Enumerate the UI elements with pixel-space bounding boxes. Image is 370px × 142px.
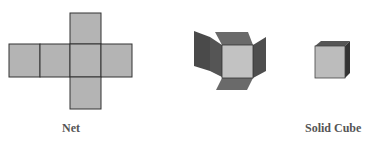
net-label: Net — [62, 121, 80, 136]
net-figure — [9, 13, 132, 109]
solid-face-side — [345, 41, 350, 78]
net-face-left-1 — [9, 44, 40, 77]
solid-face-front — [315, 46, 345, 78]
solid-cube-label: Solid Cube — [305, 121, 361, 136]
fold-flap-bottom — [216, 78, 253, 90]
net-face-top — [70, 13, 101, 44]
net-face-right — [101, 44, 132, 77]
solid-cube-figure — [315, 41, 350, 78]
solid-face-top — [315, 41, 350, 46]
net-face-bottom — [70, 77, 101, 109]
net-face-center — [70, 44, 101, 77]
fold-flap-top — [215, 32, 253, 45]
fold-flap-right — [253, 37, 266, 78]
folding-cube-figure — [194, 31, 266, 90]
fold-face-front — [222, 45, 253, 78]
fold-flap-left — [210, 37, 222, 77]
net-face-left-2 — [40, 44, 70, 77]
fold-flap-far-left — [194, 31, 210, 71]
